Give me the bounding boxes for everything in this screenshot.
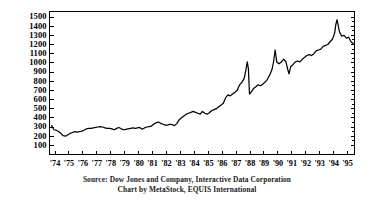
x-tick-label-86: '86 <box>217 159 227 168</box>
x-tick-label-92: '92 <box>301 159 311 168</box>
y-tick-label-700: 700 <box>34 85 47 95</box>
x-tick-label-76: '76 <box>78 159 88 168</box>
y-tick-label-1200: 1200 <box>29 39 46 49</box>
chart-credit-caption: Chart by MetaStock, EQUIS International <box>0 185 374 194</box>
y-axis-ticks <box>50 17 355 145</box>
y-tick-label-500: 500 <box>34 103 47 113</box>
x-tick-label-84: '84 <box>189 159 199 168</box>
x-tick-label-80: '80 <box>133 159 143 168</box>
y-tick-label-900: 900 <box>34 66 47 76</box>
x-tick-label-81: '81 <box>147 159 157 168</box>
y-tick-label-200: 200 <box>34 131 47 141</box>
source-caption: Source: Dow Jones and Company, Interacti… <box>0 175 374 184</box>
x-tick-label-75: '75 <box>64 159 74 168</box>
data-line-series-0 <box>52 20 354 136</box>
y-tick-label-1500: 1500 <box>29 11 46 21</box>
chart-page: 1002003004005006007008009001000110012001… <box>0 0 374 200</box>
x-tick-label-88: '88 <box>245 159 255 168</box>
y-tick-label-600: 600 <box>34 94 47 104</box>
y-tick-label-100: 100 <box>34 140 47 150</box>
y-tick-label-1400: 1400 <box>29 21 46 31</box>
y-tick-label-300: 300 <box>34 121 47 131</box>
x-tick-label-95: '95 <box>342 159 352 168</box>
y-tick-label-400: 400 <box>34 112 47 122</box>
y-axis-tick-labels: 1002003004005006007008009001000110012001… <box>29 11 46 149</box>
x-tick-label-79: '79 <box>119 159 129 168</box>
x-tick-label-94: '94 <box>328 159 338 168</box>
x-tick-label-78: '78 <box>106 159 116 168</box>
x-tick-label-77: '77 <box>92 159 102 168</box>
x-tick-label-85: '85 <box>203 159 213 168</box>
x-tick-label-83: '83 <box>175 159 185 168</box>
y-tick-label-800: 800 <box>34 76 47 86</box>
y-tick-label-1100: 1100 <box>30 48 47 58</box>
x-axis-ticks <box>55 151 347 155</box>
x-tick-label-87: '87 <box>231 159 241 168</box>
x-tick-label-82: '82 <box>161 159 171 168</box>
x-tick-label-91: '91 <box>287 159 297 168</box>
data-series-group <box>52 20 354 136</box>
x-tick-label-74: '74 <box>50 159 60 168</box>
stock-index-line-chart: 1002003004005006007008009001000110012001… <box>0 0 374 200</box>
plot-frame <box>50 12 355 155</box>
x-axis-tick-labels: '74'75'76'77'78'79'80'81'82'83'84'85'86'… <box>50 159 353 168</box>
y-tick-label-1000: 1000 <box>29 57 46 67</box>
chart-canvas: 1002003004005006007008009001000110012001… <box>0 0 374 200</box>
x-tick-label-93: '93 <box>314 159 324 168</box>
y-tick-label-1300: 1300 <box>29 30 46 40</box>
x-tick-label-89: '89 <box>259 159 269 168</box>
x-tick-label-90: '90 <box>273 159 283 168</box>
